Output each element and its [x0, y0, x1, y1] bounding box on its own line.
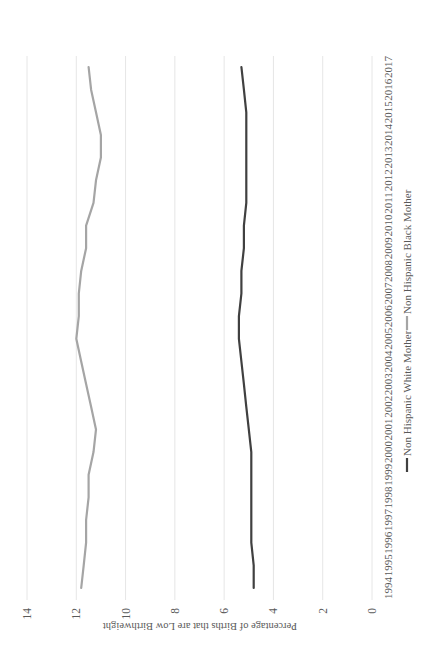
- line-chart: 02468101214 Percentage of Births that ar…: [0, 0, 430, 648]
- x-tick-label: 1997: [382, 509, 394, 532]
- rotated-chart: 02468101214 Percentage of Births that ar…: [0, 0, 430, 648]
- y-tick-label: 2: [317, 608, 329, 614]
- x-tick-label: 2004: [382, 350, 394, 373]
- x-tick-label: 1995: [382, 554, 394, 577]
- x-tick-label: 2011: [382, 192, 394, 214]
- x-tick-label: 2016: [382, 78, 394, 101]
- legend-label: Non Hispanic Black Mother: [401, 189, 413, 314]
- y-tick-label: 12: [70, 608, 82, 620]
- x-tick-label: 1999: [382, 463, 394, 486]
- x-tick-label: 2008: [382, 259, 394, 282]
- y-axis-title: Percentage of Births that are Low Birthw…: [103, 621, 297, 632]
- x-tick-label: 2002: [382, 396, 394, 418]
- x-axis-ticks: 1994199519961997199819992000200120022003…: [382, 56, 394, 600]
- y-tick-label: 8: [169, 608, 181, 614]
- x-tick-label: 1996: [382, 531, 394, 554]
- x-tick-label: 2000: [382, 441, 394, 464]
- x-tick-label: 1998: [382, 486, 394, 509]
- x-tick-label: 2006: [382, 305, 394, 328]
- x-tick-label: 2003: [382, 373, 394, 396]
- legend: Non Hispanic White MotherNon Hispanic Bl…: [401, 189, 413, 472]
- x-tick-label: 2014: [382, 123, 394, 146]
- y-tick-label: 6: [218, 608, 230, 614]
- x-tick-label: 2015: [382, 101, 394, 124]
- x-tick-label: 2010: [382, 214, 394, 237]
- x-tick-label: 2005: [382, 327, 394, 350]
- y-tick-label: 4: [267, 608, 279, 614]
- x-tick-label: 2013: [382, 146, 394, 169]
- series-line-black-mother: [76, 67, 101, 588]
- x-tick-label: 2017: [382, 56, 394, 79]
- x-tick-label: 2007: [382, 282, 394, 305]
- series-line-white-mother: [239, 67, 254, 588]
- legend-label: Non Hispanic White Mother: [401, 330, 413, 456]
- x-tick-label: 1994: [382, 577, 394, 600]
- y-axis-ticks: 02468101214: [21, 608, 378, 620]
- x-tick-label: 2001: [382, 418, 394, 440]
- x-tick-label: 2009: [382, 237, 394, 260]
- series-lines: [76, 67, 253, 588]
- x-tick-label: 2012: [382, 169, 394, 191]
- gridlines: [27, 56, 372, 600]
- y-tick-label: 10: [120, 608, 132, 620]
- y-tick-label: 14: [21, 608, 33, 620]
- y-tick-label: 0: [366, 608, 378, 614]
